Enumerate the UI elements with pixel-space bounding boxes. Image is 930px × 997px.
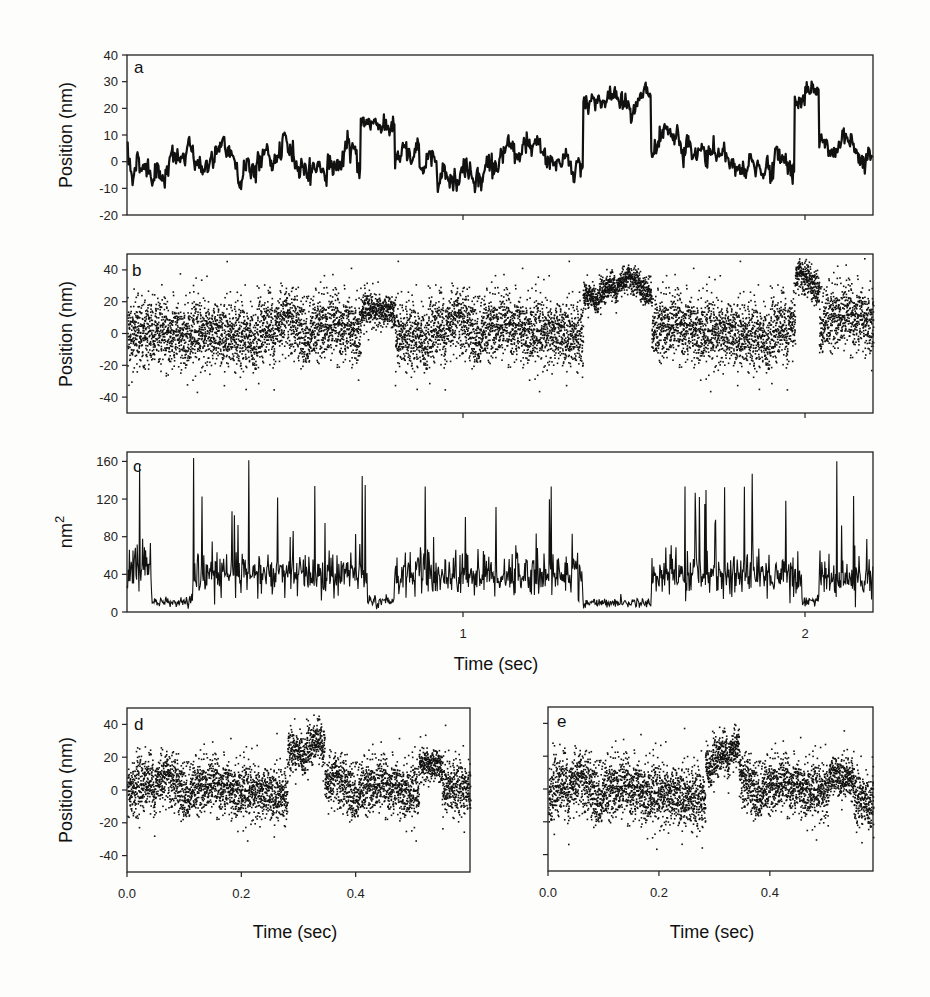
svg-text:160: 160 xyxy=(96,454,118,469)
svg-text:2: 2 xyxy=(801,626,808,641)
panel-a-y-label: Position (nm) xyxy=(56,82,76,188)
svg-text:10: 10 xyxy=(104,128,118,143)
svg-text:-20: -20 xyxy=(99,358,118,373)
svg-text:80: 80 xyxy=(104,529,118,544)
svg-text:40: 40 xyxy=(104,262,118,277)
svg-text:0: 0 xyxy=(111,783,118,798)
panel-e-x-axis: 0.00.20.4 xyxy=(539,871,779,900)
svg-text:0.0: 0.0 xyxy=(539,885,557,900)
panel-d-y-label: Position (nm) xyxy=(56,737,76,843)
svg-text:0.0: 0.0 xyxy=(118,886,136,901)
svg-text:0: 0 xyxy=(111,326,118,341)
panel-c-letter: c xyxy=(133,457,142,476)
panel-a-letter: a xyxy=(134,58,144,77)
svg-text:20: 20 xyxy=(104,294,118,309)
svg-text:0: 0 xyxy=(111,605,118,620)
panel-d: -40-2002040 0.00.20.4 d Position (nm) Ti… xyxy=(56,708,472,942)
panel-c: 04080120160 12 c nm2 Time (sec) xyxy=(52,452,873,674)
svg-text:30: 30 xyxy=(104,74,118,89)
panel-a-x-axis xyxy=(463,215,805,220)
svg-text:40: 40 xyxy=(104,567,118,582)
svg-text:-40: -40 xyxy=(99,390,118,405)
svg-text:120: 120 xyxy=(96,492,118,507)
panel-e-points xyxy=(548,724,875,850)
panel-b: -40-2002040 b Position (nm) xyxy=(56,254,875,418)
svg-text:-40: -40 xyxy=(99,848,118,863)
panel-e-letter: e xyxy=(557,712,566,731)
panel-c-y-axis: 04080120160 xyxy=(96,454,127,620)
svg-text:40: 40 xyxy=(104,48,118,63)
panel-d-y-axis: -40-2002040 xyxy=(99,717,127,863)
panel-b-letter: b xyxy=(132,261,141,280)
svg-text:0: 0 xyxy=(111,154,118,169)
panel-c-y-label: nm2 xyxy=(52,516,76,548)
svg-text:1: 1 xyxy=(459,626,466,641)
svg-text:20: 20 xyxy=(104,101,118,116)
svg-text:nm2: nm2 xyxy=(52,516,76,548)
panel-d-x-axis: 0.00.20.4 xyxy=(118,872,365,901)
svg-text:-10: -10 xyxy=(99,181,118,196)
panel-a-y-axis: -20-10010203040 xyxy=(99,48,127,223)
panel-e: 0.00.20.4 e Time (sec) xyxy=(539,707,875,942)
panel-a-trace xyxy=(127,82,873,193)
svg-text:40: 40 xyxy=(104,717,118,732)
panel-b-points xyxy=(127,258,875,393)
panel-d-points xyxy=(127,714,472,841)
svg-text:0.2: 0.2 xyxy=(232,886,250,901)
panel-e-x-label: Time (sec) xyxy=(670,922,754,942)
panel-b-y-label: Position (nm) xyxy=(56,281,76,387)
panel-d-x-label: Time (sec) xyxy=(253,922,337,942)
panel-c-x-label: Time (sec) xyxy=(454,654,538,674)
svg-text:20: 20 xyxy=(104,750,118,765)
svg-text:0.4: 0.4 xyxy=(347,886,365,901)
svg-text:0.4: 0.4 xyxy=(761,885,779,900)
svg-text:-20: -20 xyxy=(99,208,118,223)
panel-d-letter: d xyxy=(134,715,143,734)
panel-e-y-axis xyxy=(543,723,548,854)
panel-c-trace xyxy=(127,458,873,609)
panel-b-y-axis: -40-2002040 xyxy=(99,262,127,404)
svg-text:0.2: 0.2 xyxy=(650,885,668,900)
panel-b-x-axis xyxy=(463,413,805,418)
figure-canvas: -20-10010203040 a Position (nm) -40-2002… xyxy=(0,0,930,997)
panel-a: -20-10010203040 a Position (nm) xyxy=(56,48,873,223)
svg-text:-20: -20 xyxy=(99,815,118,830)
panel-a-frame xyxy=(127,55,873,215)
panel-c-x-axis: 12 xyxy=(459,612,808,641)
